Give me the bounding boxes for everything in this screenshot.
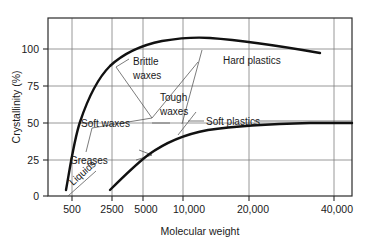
region-label-brittle-waxes-line1: Brittle — [133, 56, 159, 67]
region-label-soft-plastics: Soft plastics — [206, 116, 260, 127]
x-axis-title: Molecular weight — [161, 225, 240, 237]
x-tick-label-5000: 5000 — [134, 203, 158, 215]
chart-svg: 100 75 50 25 0 500 2500 5000 10,000 20,0… — [0, 0, 368, 243]
y-tick-label-0: 0 — [33, 190, 39, 202]
region-label-tough-waxes-line2: waxes — [159, 106, 188, 117]
x-tick-label-20000: 20,000 — [237, 203, 269, 215]
y-axis-ticks — [43, 49, 48, 196]
x-tick-label-10000: 10,000 — [173, 203, 205, 215]
y-tick-label-75: 75 — [27, 80, 39, 92]
chart-figure: 100 75 50 25 0 500 2500 5000 10,000 20,0… — [0, 0, 368, 243]
region-label-soft-waxes: Soft waxes — [81, 118, 130, 129]
x-tick-label-2500: 2500 — [100, 203, 124, 215]
x-tick-label-40000: 40,000 — [321, 203, 353, 215]
y-axis-title: Crystallinity (%) — [10, 71, 22, 144]
y-tick-label-25: 25 — [27, 154, 39, 166]
y-tick-label-100: 100 — [21, 43, 39, 55]
x-axis-ticks — [72, 196, 334, 201]
x-tick-label-500: 500 — [63, 203, 81, 215]
y-tick-label-50: 50 — [27, 117, 39, 129]
region-label-tough-waxes-line1: Tough — [160, 92, 187, 103]
y-tick-labels: 100 75 50 25 0 — [21, 43, 39, 202]
region-label-brittle-waxes-line2: waxes — [132, 70, 161, 81]
region-label-hard-plastics: Hard plastics — [223, 55, 281, 66]
x-tick-labels: 500 2500 5000 10,000 20,000 40,000 — [63, 203, 353, 215]
